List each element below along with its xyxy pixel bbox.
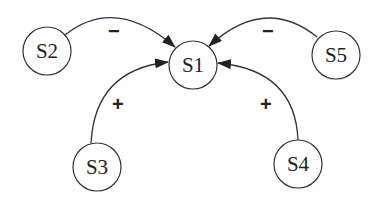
sign-s3-s1: + <box>112 93 124 115</box>
node-s3-label: S3 <box>86 155 108 179</box>
node-s4-label: S4 <box>287 152 310 176</box>
node-s5: S5 <box>312 31 360 79</box>
node-s1-label: S1 <box>182 53 204 77</box>
node-s2: S2 <box>23 27 71 75</box>
edge-s4-s1 <box>218 63 298 140</box>
sign-s5-s1: − <box>262 20 274 42</box>
sign-s4-s1: + <box>260 93 272 115</box>
node-s5-label: S5 <box>325 43 347 67</box>
node-s2-label: S2 <box>36 39 58 63</box>
node-s1: S1 <box>169 41 217 89</box>
influence-diagram: − − + + S1 S2 S3 S4 S5 <box>0 0 381 203</box>
edge-s3-s1 <box>91 62 168 143</box>
sign-s2-s1: − <box>108 20 120 42</box>
node-s4: S4 <box>274 140 322 188</box>
node-s3: S3 <box>73 143 121 191</box>
edge-s2-s1 <box>65 18 175 47</box>
